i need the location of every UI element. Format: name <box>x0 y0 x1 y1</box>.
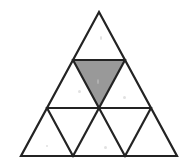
triangle-diagram-svg <box>0 0 187 168</box>
figure-canvas: A large equilateral triangle divided by … <box>0 0 187 168</box>
